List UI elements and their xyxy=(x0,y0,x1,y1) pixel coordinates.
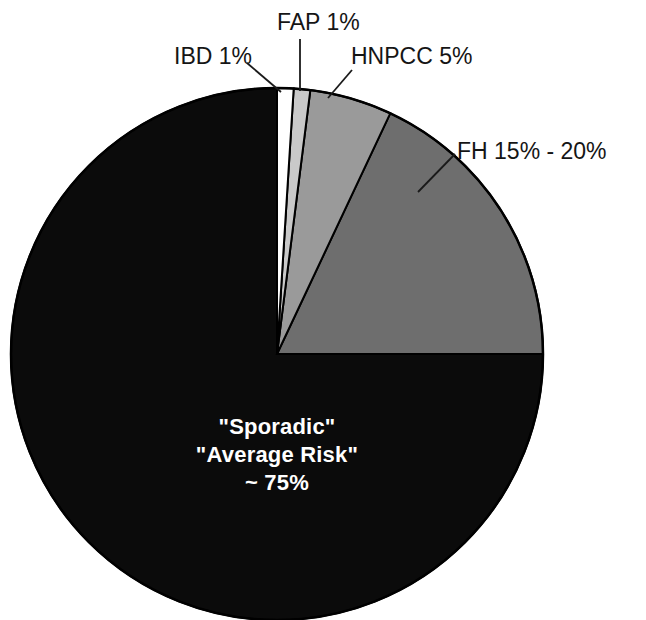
pie-chart-figure: IBD 1% FAP 1% HNPCC 5% FH 15% - 20% "Spo… xyxy=(0,0,646,620)
center-label-line-3: ~ 75% xyxy=(137,469,417,497)
sporadic-center-label: "Sporadic" "Average Risk" ~ 75% xyxy=(137,413,417,497)
slice-callout-fap: FAP 1% xyxy=(277,10,360,34)
slice-callout-fh: FH 15% - 20% xyxy=(457,139,607,163)
pie-chart-svg xyxy=(0,0,646,620)
slice-callout-ibd: IBD 1% xyxy=(174,44,252,68)
center-label-line-1: "Sporadic" xyxy=(137,413,417,441)
center-label-line-2: "Average Risk" xyxy=(137,441,417,469)
leader-line-hnpcc xyxy=(328,70,352,98)
slice-callout-hnpcc: HNPCC 5% xyxy=(351,44,472,68)
